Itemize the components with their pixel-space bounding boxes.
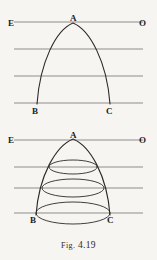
- top-figure-panel: E A O B C: [0, 0, 157, 125]
- vertex-label-a: A: [70, 13, 77, 23]
- vertex-label-c: C: [106, 106, 113, 116]
- vertex-label-o: O: [139, 18, 146, 28]
- parabolic-arc-revolved: [36, 139, 110, 215]
- bottom-figure-panel: E A O B C: [0, 125, 157, 240]
- figure-caption: Fig. 4.19: [0, 240, 157, 250]
- parabolic-arc: [37, 23, 110, 104]
- figure-page: E A O B C E A O B C Fig. 4.19: [0, 0, 157, 260]
- top-horizontal-rules: [14, 22, 143, 103]
- vertex-label-b-2: B: [30, 215, 36, 225]
- figure-caption-prefix: Fig.: [61, 241, 75, 250]
- vertex-label-b: B: [32, 106, 38, 116]
- figure-caption-number: 4.19: [78, 240, 96, 250]
- vertex-label-e-2: E: [8, 135, 14, 145]
- vertex-label-a-2: A: [70, 130, 77, 140]
- vertex-label-c-2: C: [107, 215, 114, 225]
- vertex-label-e: E: [8, 18, 14, 28]
- vertex-label-o-2: O: [139, 135, 146, 145]
